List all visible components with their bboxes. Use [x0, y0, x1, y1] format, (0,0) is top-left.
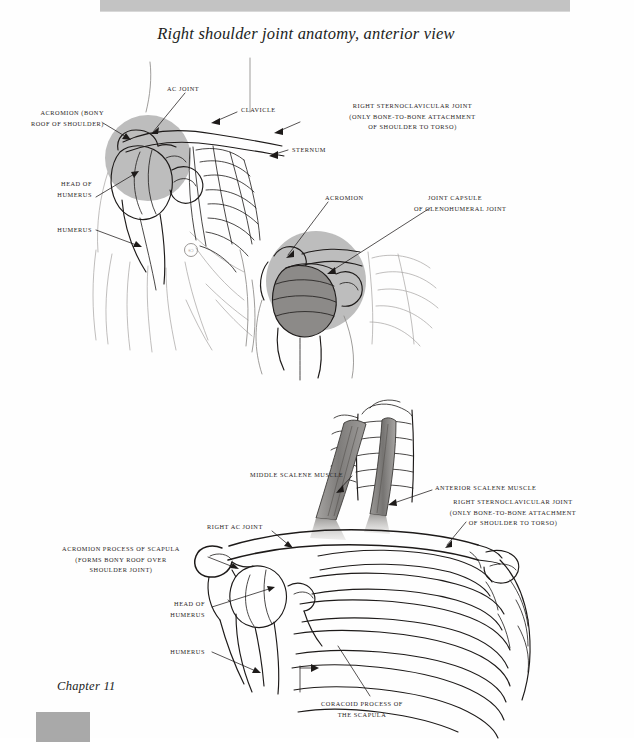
chapter-thumbnail-box — [36, 712, 90, 742]
label-head-of-humerus-bottom: HEAD OF HUMERUS — [110, 599, 205, 620]
label-middle-scalene-muscle: MIDDLE SCALENE MUSCLE — [250, 470, 343, 481]
label-acromion-bony-roof: ACROMION (BONY ROOF OF SHOULDER) — [0, 108, 104, 129]
label-head-of-humerus: HEAD OF HUMERUS — [0, 179, 92, 200]
label-right-sternoclavicular-joint-bottom: RIGHT STERNOCLAVICULAR JOINT (ONLY BONE-… — [404, 497, 622, 529]
label-acromion-inset: ACROMION — [325, 193, 364, 204]
svg-text:©: © — [188, 247, 194, 255]
label-humerus-bottom: HUMERUS — [110, 647, 205, 658]
label-ac-joint: AC JOINT — [167, 84, 199, 95]
label-right-sternoclavicular-joint: RIGHT STERNOCLAVICULAR JOINT (ONLY BONE-… — [305, 101, 520, 133]
label-right-ac-joint: RIGHT AC JOINT — [207, 522, 263, 533]
highlight-circle-inset — [266, 231, 366, 331]
label-acromion-process-of-scapula: ACROMION PROCESS OF SCAPULA (FORMS BONY … — [38, 544, 204, 576]
label-anterior-scalene-muscle: ANTERIOR SCALENE MUSCLE — [435, 483, 537, 494]
page-title: Right shoulder joint anatomy, anterior v… — [0, 24, 612, 44]
label-coracoid-process-of-the-scapula: CORACOID PROCESS OF THE SCAPULA — [282, 699, 442, 720]
page-header-band — [100, 0, 570, 12]
chapter-label: Chapter 11 — [57, 679, 116, 694]
label-clavicle: CLAVICLE — [241, 105, 276, 116]
anterior-scalene-muscle-shape — [370, 418, 396, 516]
label-sternum: STERNUM — [292, 145, 326, 156]
highlight-circle-top — [105, 115, 191, 201]
label-humerus: HUMERUS — [0, 225, 92, 236]
label-joint-capsule-glenohumeral: JOINT CAPSULE OF GLENOHUMERAL JOINT — [414, 193, 506, 214]
